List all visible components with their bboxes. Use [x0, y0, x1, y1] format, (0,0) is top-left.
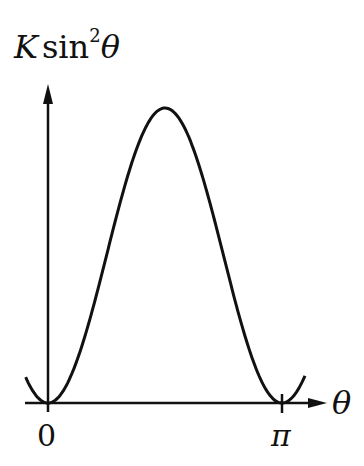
- sin-squared-curve: [26, 108, 305, 403]
- y-axis-arrow-icon: [43, 84, 53, 104]
- x-tick-label-0: 0: [37, 418, 56, 453]
- plot-canvas: [0, 0, 364, 466]
- y-axis-label: Ksin2θ: [14, 28, 120, 66]
- x-tick-label-pi: π: [271, 418, 291, 453]
- x-axis-label: θ: [332, 384, 351, 422]
- x-axis-arrow-icon: [308, 398, 327, 408]
